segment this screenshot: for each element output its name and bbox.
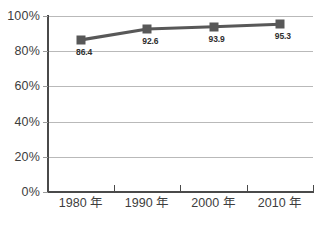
data-point-1980 (77, 35, 86, 44)
data-label-1990: 92.6 (130, 37, 170, 46)
data-label-2010: 95.3 (263, 32, 303, 41)
data-point-1990 (143, 25, 152, 34)
data-label-1980: 86.4 (64, 48, 104, 57)
data-point-2010 (275, 20, 284, 29)
data-label-2000: 93.9 (197, 35, 237, 44)
line-chart: 100% 80% 60% 40% 20% 0% 1980 年 1990 年 20… (0, 0, 329, 225)
data-point-2000 (209, 22, 218, 31)
